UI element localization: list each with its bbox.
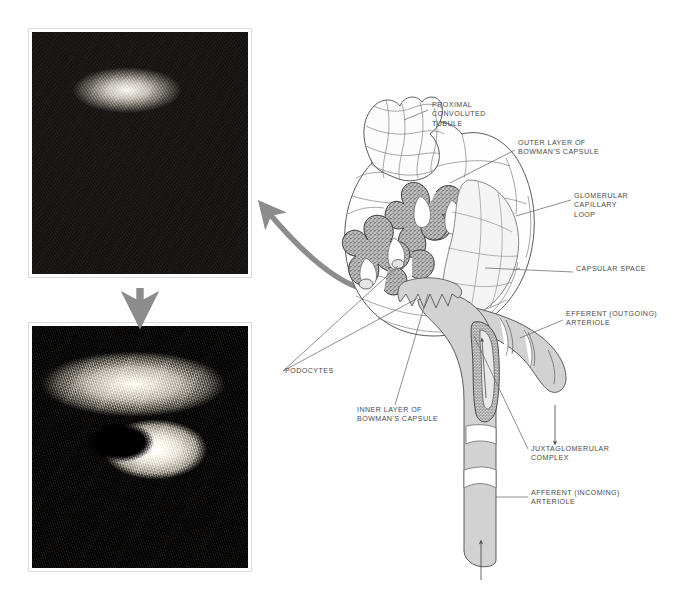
label-juxtaglomerular-complex: JUXTAGLOMERULAR COMPLEX <box>531 445 612 462</box>
nephron-diagram: PROXIMAL CONVOLUTED TUBULE OUTER LAYER O… <box>0 0 687 605</box>
label-podocytes: PODOCYTES <box>285 367 334 375</box>
label-outer-layer-bowmans-capsule: OUTER LAYER OF BOWMAN'S CAPSULE <box>518 139 599 156</box>
label-afferent-arteriole: AFFERENT (INCOMING) ARTERIOLE <box>531 489 622 506</box>
curved-arrow-to-top-photo <box>268 212 357 287</box>
label-glomerular-capillary-loop: GLOMERULAR CAPILLARY LOOP <box>574 192 631 219</box>
label-proximal-convoluted-tubule: PROXIMAL CONVOLUTED TUBULE <box>432 101 488 128</box>
label-efferent-arteriole: EFFERENT (OUTGOING) ARTERIOLE <box>566 310 660 327</box>
label-inner-layer-bowmans-capsule: INNER LAYER OF BOWMAN'S CAPSULE <box>357 406 438 423</box>
label-capsular-space: CAPSULAR SPACE <box>576 265 646 273</box>
